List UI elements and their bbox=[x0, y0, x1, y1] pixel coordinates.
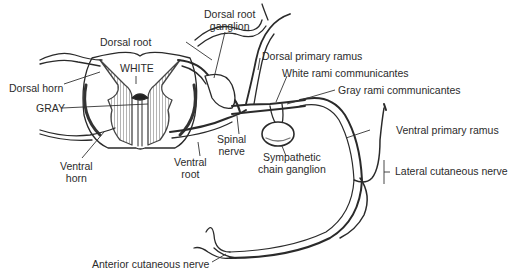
label-gray-matter: GRAY bbox=[36, 102, 65, 114]
label-line: Spinal bbox=[217, 133, 246, 145]
label-white-rami-communicantes: White rami communicantes bbox=[282, 67, 409, 79]
label-sympathetic-chain-ganglion: Sympathetic chain ganglion bbox=[258, 151, 326, 175]
label-line: nerve bbox=[217, 145, 246, 157]
diagram-illustration bbox=[0, 0, 511, 276]
label-line: Sympathetic bbox=[258, 151, 326, 163]
label-dorsal-primary-ramus: Dorsal primary ramus bbox=[262, 50, 362, 62]
label-ventral-primary-ramus: Ventral primary ramus bbox=[396, 124, 499, 136]
label-ventral-horn: Ventral horn bbox=[60, 160, 93, 184]
label-line: Ventral bbox=[174, 156, 207, 168]
label-line: ganglion bbox=[204, 20, 255, 32]
label-line: horn bbox=[60, 172, 93, 184]
label-white-matter: WHITE bbox=[120, 62, 154, 74]
label-dorsal-root: Dorsal root bbox=[100, 36, 151, 48]
label-lateral-cutaneous-nerve: Lateral cutaneous nerve bbox=[395, 165, 508, 177]
label-dorsal-horn: Dorsal horn bbox=[9, 82, 63, 94]
label-dorsal-root-ganglion: Dorsal root ganglion bbox=[204, 8, 255, 32]
label-spinal-nerve: Spinal nerve bbox=[217, 133, 246, 157]
label-line: root bbox=[174, 168, 207, 180]
label-gray-rami-communicantes: Gray rami communicantes bbox=[338, 84, 461, 96]
label-ventral-root: Ventral root bbox=[174, 156, 207, 180]
label-line: Dorsal root bbox=[204, 8, 255, 20]
label-line: chain ganglion bbox=[258, 163, 326, 175]
label-line: Ventral bbox=[60, 160, 93, 172]
spinal-nerve-diagram: Dorsal root ganglion Dorsal root Dorsal … bbox=[0, 0, 511, 276]
label-anterior-cutaneous-nerve: Anterior cutaneous nerve bbox=[92, 258, 209, 270]
